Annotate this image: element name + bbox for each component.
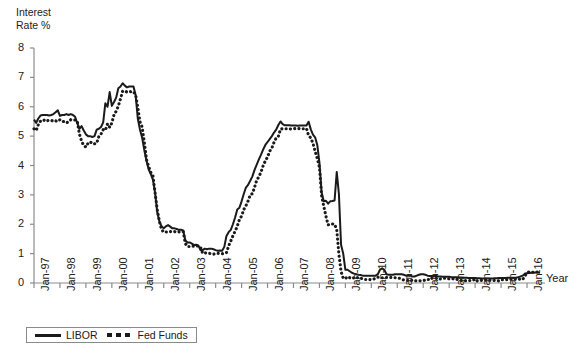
- x-tick-label: Jan-01: [143, 257, 155, 291]
- y-tick-label: 8: [8, 41, 24, 53]
- legend-label-libor: LIBOR: [66, 329, 98, 341]
- chart-container: Interest Rate % 012345678 Jan-97Jan-98Ja…: [0, 0, 578, 353]
- x-tick-label: Jan-15: [506, 257, 518, 291]
- x-tick-label: Jan-97: [39, 257, 51, 291]
- x-tick-label: Jan-07: [298, 257, 310, 291]
- series-layer: [34, 83, 540, 281]
- x-tick-label: Jan-09: [350, 257, 362, 291]
- chart-legend: LIBOR Fed Funds: [26, 327, 197, 343]
- series-line-fed-funds: [34, 91, 540, 281]
- chart-plot-area: [0, 0, 578, 353]
- solid-line-swatch-icon: [35, 334, 61, 337]
- x-tick-label: Jan-06: [273, 257, 285, 291]
- y-tick-label: 0: [8, 276, 24, 288]
- y-tick-label: 3: [8, 188, 24, 200]
- x-tick-label: Jan-10: [376, 257, 388, 291]
- legend-item-libor: LIBOR: [35, 329, 98, 341]
- x-tick-label: Jan-08: [324, 257, 336, 291]
- y-tick-label: 4: [8, 159, 24, 171]
- x-tick-label: Jan-04: [221, 257, 233, 291]
- series-line-libor: [34, 83, 540, 278]
- x-tick-label: Jan-11: [402, 258, 414, 291]
- x-tick-label: Jan-16: [532, 257, 544, 291]
- legend-item-fed-funds: Fed Funds: [107, 329, 188, 341]
- y-tick-label: 6: [8, 100, 24, 112]
- x-tick-label: Jan-02: [169, 257, 181, 291]
- y-tick-label: 1: [8, 247, 24, 259]
- x-tick-label: Jan-98: [65, 257, 77, 291]
- axes-layer: [30, 48, 545, 288]
- dotted-line-swatch-icon: [107, 333, 133, 337]
- x-tick-label: Jan-03: [195, 257, 207, 291]
- x-tick-label: Jan-00: [117, 257, 129, 291]
- x-tick-label: Jan-13: [454, 257, 466, 291]
- y-tick-label: 5: [8, 129, 24, 141]
- x-tick-label: Jan-99: [91, 257, 103, 291]
- x-tick-label: Jan-14: [480, 257, 492, 291]
- x-axis-title: Year: [546, 272, 568, 284]
- x-tick-label: Jan-12: [428, 257, 440, 291]
- y-tick-label: 2: [8, 217, 24, 229]
- y-tick-label: 7: [8, 70, 24, 82]
- x-tick-label: Jan-05: [247, 257, 259, 291]
- legend-label-fed-funds: Fed Funds: [138, 329, 188, 341]
